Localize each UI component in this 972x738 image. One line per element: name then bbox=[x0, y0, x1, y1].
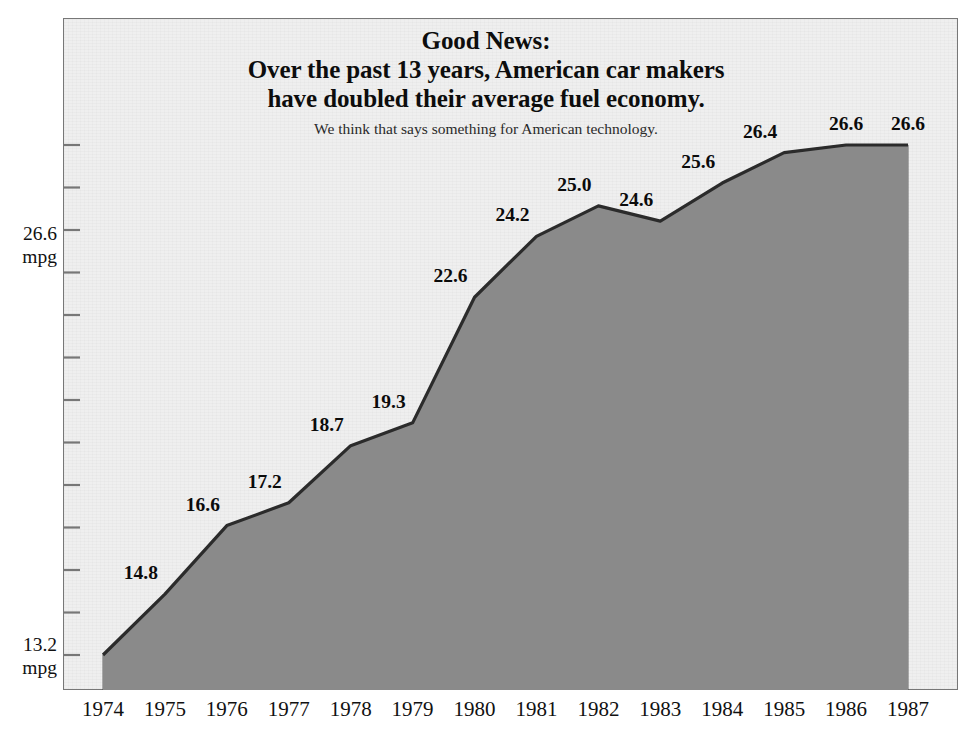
y-axis-bottom-value: 13.2 bbox=[23, 634, 57, 655]
chart-page: Good News: Over the past 13 years, Ameri… bbox=[0, 0, 972, 738]
x-axis-label-1981: 1981 bbox=[501, 697, 571, 722]
title-line-2: Over the past 13 years, American car mak… bbox=[0, 55, 972, 84]
data-label-1984: 25.6 bbox=[681, 151, 715, 173]
data-label-1983: 24.6 bbox=[619, 189, 653, 211]
chart-subtitle: We think that says something for America… bbox=[0, 120, 972, 138]
x-axis-label-1986: 1986 bbox=[811, 697, 881, 722]
y-axis-label-top: 26.6 mpg bbox=[0, 222, 57, 268]
y-axis-bottom-unit: mpg bbox=[0, 656, 57, 679]
x-axis-label-1978: 1978 bbox=[316, 697, 386, 722]
x-axis-label-1979: 1979 bbox=[378, 697, 448, 722]
x-axis: 1974197519761977197819791980198119821983… bbox=[0, 697, 972, 727]
data-label-1978: 18.7 bbox=[310, 414, 344, 436]
y-axis-ticks bbox=[63, 145, 80, 655]
y-axis-top-unit: mpg bbox=[0, 245, 57, 268]
title-line-3: have doubled their average fuel economy. bbox=[0, 84, 972, 113]
y-axis-label-bottom: 13.2 mpg bbox=[0, 633, 57, 679]
x-axis-label-1985: 1985 bbox=[749, 697, 819, 722]
x-axis-label-1987: 1987 bbox=[873, 697, 943, 722]
data-label-1986: 26.6 bbox=[829, 113, 863, 135]
data-label-1976: 16.6 bbox=[186, 494, 220, 516]
x-axis-label-1976: 1976 bbox=[192, 697, 262, 722]
data-label-1981: 24.2 bbox=[495, 204, 529, 226]
x-axis-label-1982: 1982 bbox=[563, 697, 633, 722]
data-label-1987: 26.6 bbox=[891, 113, 925, 135]
title-block: Good News: Over the past 13 years, Ameri… bbox=[0, 26, 972, 138]
title-line-1: Good News: bbox=[0, 26, 972, 55]
x-axis-label-1977: 1977 bbox=[254, 697, 324, 722]
area-series-fill bbox=[103, 145, 908, 690]
x-axis-label-1983: 1983 bbox=[625, 697, 695, 722]
x-axis-label-1974: 1974 bbox=[68, 697, 138, 722]
data-label-1977: 17.2 bbox=[248, 471, 282, 493]
x-axis-label-1984: 1984 bbox=[687, 697, 757, 722]
y-axis-top-value: 26.6 bbox=[23, 223, 57, 244]
data-label-1975: 14.8 bbox=[124, 562, 158, 584]
data-label-1979: 19.3 bbox=[372, 391, 406, 413]
data-label-1982: 25.0 bbox=[557, 174, 591, 196]
data-label-1980: 22.6 bbox=[433, 265, 467, 287]
data-label-1985: 26.4 bbox=[743, 121, 777, 143]
x-axis-label-1975: 1975 bbox=[130, 697, 200, 722]
x-axis-label-1980: 1980 bbox=[440, 697, 510, 722]
